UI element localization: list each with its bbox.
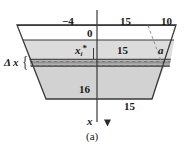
label-sample-point: xi* bbox=[75, 44, 87, 58]
label-bottom-width: 15 bbox=[124, 101, 135, 112]
label-x-axis: x bbox=[87, 116, 93, 127]
delta-x-annotation: Δ x { bbox=[4, 54, 29, 71]
delta-x-brace-icon: { bbox=[22, 54, 28, 71]
label-height-side: 16 bbox=[79, 84, 90, 95]
figure-caption: (a) bbox=[86, 131, 98, 142]
label-distance-a: a bbox=[158, 45, 164, 56]
label-depth-zero: 0 bbox=[87, 28, 93, 39]
label-top-width: 15 bbox=[120, 16, 131, 27]
tank-water-upper-band bbox=[23, 40, 174, 59]
delta-x-label: Δ x bbox=[4, 57, 19, 68]
delta-x-strip-hatch bbox=[30, 59, 171, 67]
label-slant-top: 10 bbox=[161, 16, 172, 27]
sample-point-superscript: * bbox=[82, 43, 87, 53]
label-depth-top: −4 bbox=[62, 16, 74, 27]
label-mid-width: 15 bbox=[117, 45, 128, 56]
